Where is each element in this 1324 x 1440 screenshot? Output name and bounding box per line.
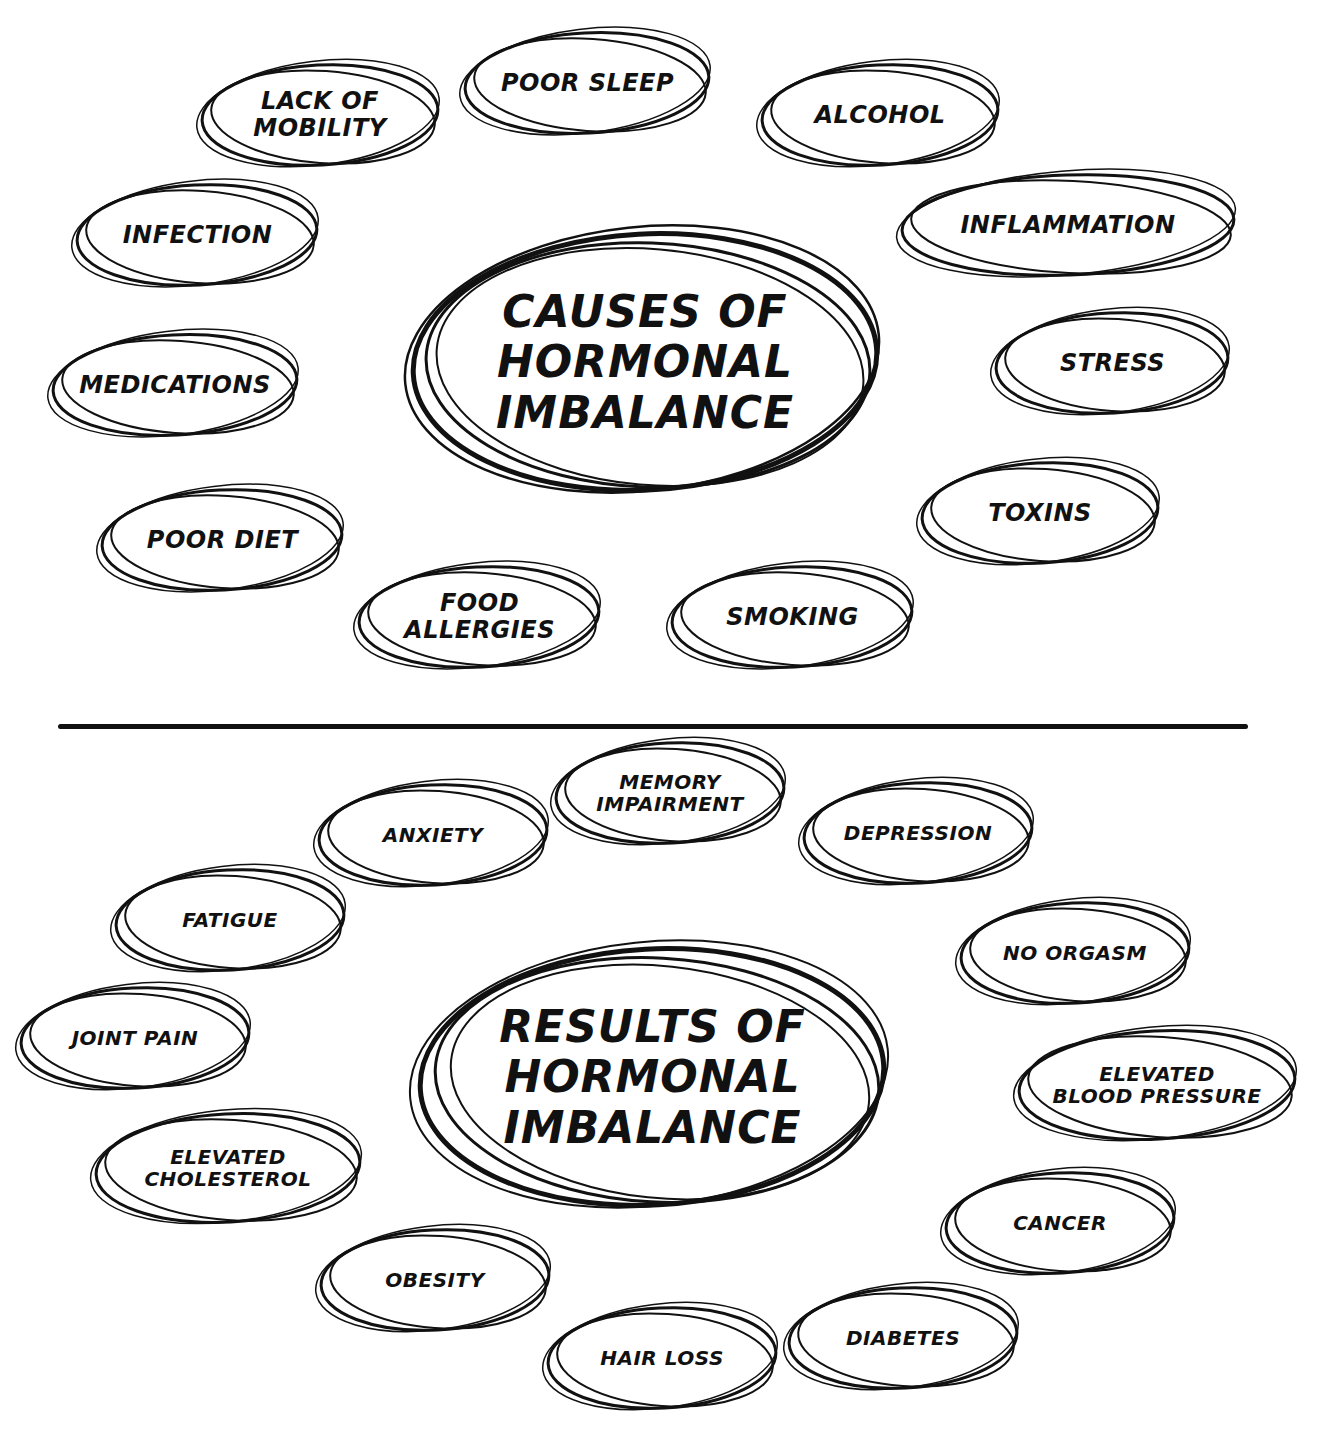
cause-label: Medications <box>45 330 305 440</box>
result-label: Elevated Blood Pressure <box>1012 1025 1302 1145</box>
results-title: Results of Hormonal Imbalance <box>405 940 900 1215</box>
result-depression: Depression <box>798 778 1038 888</box>
result-no-orgasm: No Orgasm <box>955 898 1195 1008</box>
cause-label: Food Allergies <box>352 562 607 672</box>
result-label: Elevated Cholesterol <box>88 1108 368 1228</box>
cause-infection: Infection <box>70 180 325 290</box>
result-label: Cancer <box>940 1168 1180 1278</box>
result-elevated-blood-pressure: Elevated Blood Pressure <box>1012 1025 1302 1145</box>
section-divider <box>58 724 1248 729</box>
cause-smoking: Smoking <box>665 562 920 672</box>
cause-poor-sleep: Poor Sleep <box>460 28 715 138</box>
result-fatigue: Fatigue <box>110 865 350 975</box>
cause-food-allergies: Food Allergies <box>352 562 607 672</box>
results-center-node: Results of Hormonal Imbalance <box>405 940 900 1215</box>
cause-alcohol: Alcohol <box>755 60 1005 170</box>
cause-lack-of-mobility: Lack of Mobility <box>195 60 445 170</box>
causes-title: Causes of Hormonal Imbalance <box>400 225 890 500</box>
result-label: No Orgasm <box>955 898 1195 1008</box>
cause-label: Inflammation <box>893 170 1243 280</box>
result-hair-loss: Hair Loss <box>542 1303 782 1413</box>
result-label: Diabetes <box>783 1283 1023 1393</box>
result-diabetes: Diabetes <box>783 1283 1023 1393</box>
cause-label: Alcohol <box>755 60 1005 170</box>
result-label: Depression <box>798 778 1038 888</box>
cause-label: Poor Diet <box>95 485 350 595</box>
cause-label: Stress <box>990 308 1235 418</box>
result-label: Fatigue <box>110 865 350 975</box>
result-obesity: Obesity <box>315 1225 555 1335</box>
cause-poor-diet: Poor Diet <box>95 485 350 595</box>
result-label: Memory Impairment <box>550 738 790 848</box>
cause-label: Lack of Mobility <box>195 60 445 170</box>
causes-center-node: Causes of Hormonal Imbalance <box>400 225 890 500</box>
cause-label: Smoking <box>665 562 920 672</box>
cause-label: Infection <box>70 180 325 290</box>
cause-stress: Stress <box>990 308 1235 418</box>
cause-inflammation: Inflammation <box>893 170 1243 280</box>
cause-medications: Medications <box>45 330 305 440</box>
result-memory-impairment: Memory Impairment <box>550 738 790 848</box>
result-label: Joint Pain <box>15 983 255 1093</box>
cause-label: Poor Sleep <box>460 28 715 138</box>
result-joint-pain: Joint Pain <box>15 983 255 1093</box>
result-cancer: Cancer <box>940 1168 1180 1278</box>
mind-map-canvas: Causes of Hormonal Imbalance Poor Sleep … <box>0 0 1324 1440</box>
result-label: Hair Loss <box>542 1303 782 1413</box>
result-elevated-cholesterol: Elevated Cholesterol <box>88 1108 368 1228</box>
cause-toxins: Toxins <box>915 458 1165 568</box>
cause-label: Toxins <box>915 458 1165 568</box>
result-label: Obesity <box>315 1225 555 1335</box>
